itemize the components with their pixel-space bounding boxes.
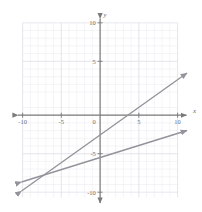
x-tick-label-neg5: -5 xyxy=(59,118,64,125)
plot-canvas: -10 -5 5 10 10 5 -5 -10 0 x y xyxy=(0,0,202,212)
y-tick-label-5: 5 xyxy=(93,58,96,65)
y-tick-label-10: 10 xyxy=(89,19,96,26)
coordinate-graph: -10 -5 5 10 10 5 -5 -10 0 x y xyxy=(0,0,202,212)
origin-label: 0 xyxy=(93,118,96,125)
y-tick-label-neg5: -5 xyxy=(90,150,95,157)
x-tick-label-10: 10 xyxy=(174,118,181,125)
y-axis-title: y xyxy=(103,11,108,19)
y-tick-label-neg10: -10 xyxy=(87,189,96,196)
x-tick-label-5: 5 xyxy=(137,118,140,125)
x-tick-label-neg10: -10 xyxy=(18,118,27,125)
x-axis-title: x xyxy=(192,107,197,115)
